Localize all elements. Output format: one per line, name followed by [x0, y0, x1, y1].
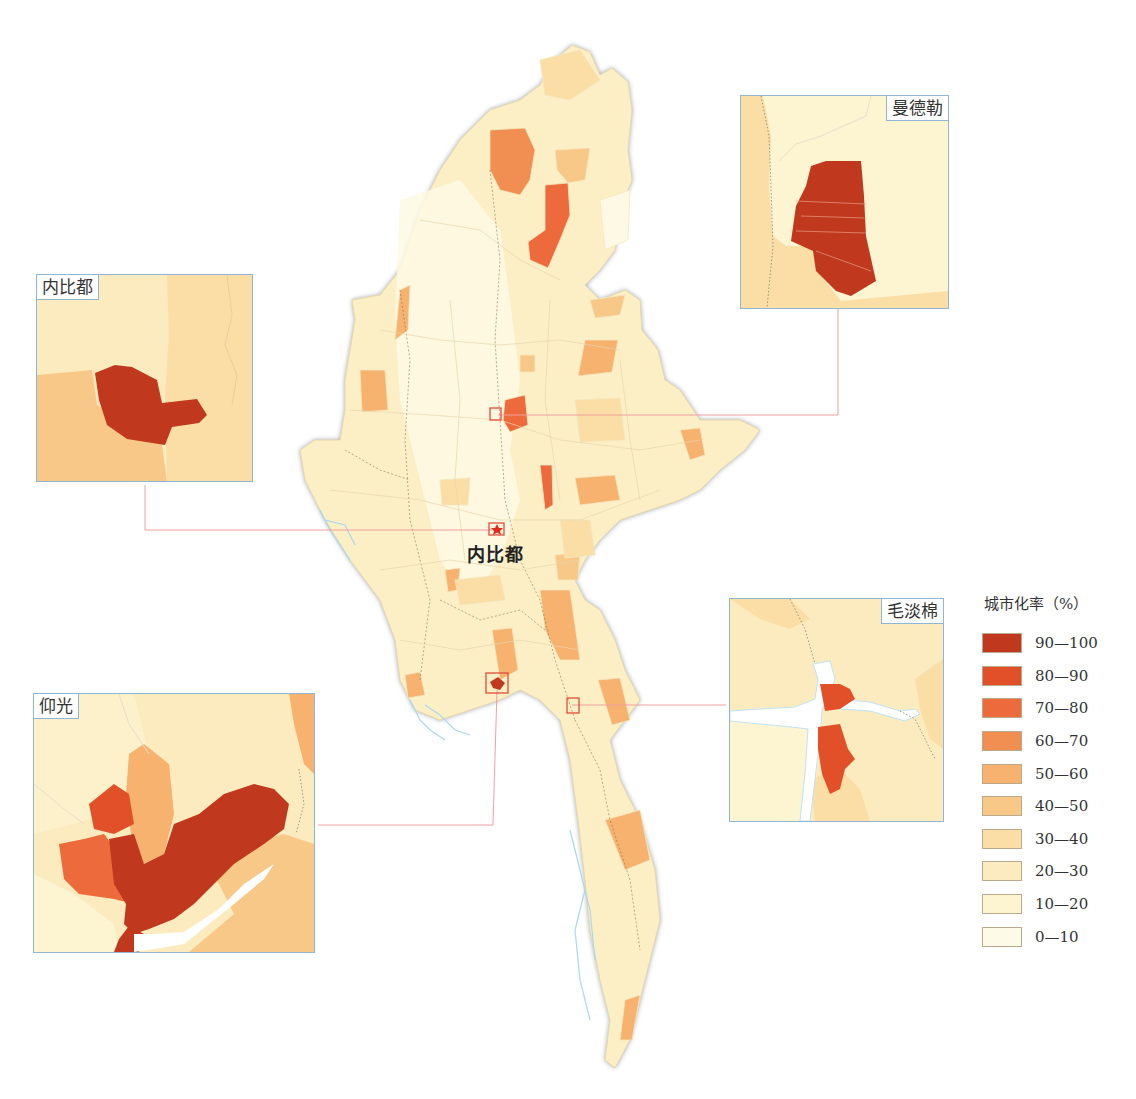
- legend-label: 10—20: [1035, 895, 1088, 913]
- mandalay-inset-map: [741, 96, 948, 308]
- legend-label: 60—70: [1035, 732, 1088, 750]
- inset-label-naypyidaw: 内比都: [37, 275, 99, 300]
- legend-label: 70—80: [1035, 699, 1088, 717]
- inset-label-mandalay: 曼德勒: [886, 96, 948, 121]
- yangon-inset-map: [34, 694, 314, 952]
- naypyidaw-inset-map: [37, 275, 252, 481]
- inset-mawlamyine: 毛淡棉: [729, 598, 944, 822]
- inset-label-mawlamyine: 毛淡棉: [881, 599, 943, 624]
- legend-label: 20—30: [1035, 862, 1088, 880]
- legend-swatch: [982, 666, 1022, 686]
- legend-item: 60—70: [976, 725, 1126, 758]
- legend-item: 50—60: [976, 757, 1126, 790]
- legend-swatch: [982, 829, 1022, 849]
- legend-label: 30—40: [1035, 830, 1088, 848]
- legend-label: 0—10: [1035, 928, 1079, 946]
- mawlamyine-inset-map: [730, 599, 943, 821]
- legend-swatch: [982, 764, 1022, 784]
- legend-label: 80—90: [1035, 667, 1088, 685]
- legend-item: 90—100: [976, 627, 1126, 660]
- legend-item: 40—50: [976, 790, 1126, 823]
- legend-label: 90—100: [1035, 634, 1098, 652]
- legend-label: 40—50: [1035, 797, 1088, 815]
- legend-item: 0—10: [976, 920, 1126, 953]
- legend-swatch: [982, 894, 1022, 914]
- legend-item: 80—90: [976, 660, 1126, 693]
- legend-label: 50—60: [1035, 765, 1088, 783]
- inset-yangon: 仰光: [33, 693, 315, 953]
- inset-mandalay: 曼德勒: [740, 95, 949, 309]
- capital-label: 内比都: [467, 540, 524, 566]
- legend-item: 70—80: [976, 692, 1126, 725]
- legend-title: 城市化率（%）: [984, 592, 1126, 613]
- legend-item: 20—30: [976, 855, 1126, 888]
- legend-swatch: [982, 731, 1022, 751]
- legend-swatch: [982, 796, 1022, 816]
- legend-item: 10—20: [976, 888, 1126, 921]
- inset-label-yangon: 仰光: [34, 694, 79, 719]
- legend-swatch: [982, 698, 1022, 718]
- legend-item: 30—40: [976, 823, 1126, 856]
- country-fill: [300, 45, 760, 1068]
- inset-naypyidaw: 内比都: [36, 274, 253, 482]
- legend-swatch: [982, 633, 1022, 653]
- legend: 城市化率（%） 90—100 80—90 70—80 60—70 50—60 4…: [976, 592, 1126, 953]
- legend-swatch: [982, 927, 1022, 947]
- legend-swatch: [982, 861, 1022, 881]
